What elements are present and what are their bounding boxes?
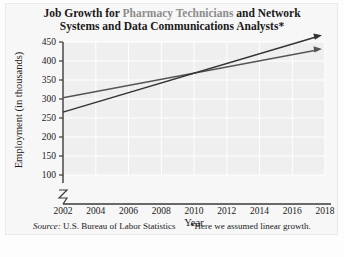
source-text: U.S. Bureau of Labor Statistics — [61, 221, 176, 231]
chart-title-line-2: Systems and Data Communications Analysts… — [60, 20, 285, 33]
x-tick-label: 2010 — [185, 206, 204, 216]
y-tick-label: 300 — [42, 94, 57, 104]
y-tick-label: 200 — [42, 132, 57, 142]
line-chart: 100 150 200 250 300 350 400 450 2002 200… — [0, 0, 344, 257]
x-tick-label: 2016 — [283, 206, 302, 216]
x-axis-tick-labels: 2002 2004 2006 2008 2010 2012 2014 2016 … — [54, 206, 335, 216]
y-tick-label: 250 — [42, 113, 57, 123]
y-axis-break-icon — [59, 190, 67, 204]
y-axis-tick-labels: 100 150 200 250 300 350 400 450 — [42, 37, 57, 180]
y-tick-label: 100 — [42, 170, 57, 180]
y-tick-label: 400 — [42, 56, 57, 66]
title-segment-suffix: and Network — [233, 7, 301, 19]
x-tick-label: 2006 — [119, 206, 138, 216]
x-tick-label: 2002 — [54, 206, 73, 216]
source-note: Source: U.S. Bureau of Labor Statistics — [33, 221, 176, 231]
x-tick-label: 2012 — [217, 206, 236, 216]
y-tick-label: 350 — [42, 75, 57, 85]
title-segment-highlight: Pharmacy Technicians — [123, 7, 234, 20]
y-tick-label: 150 — [42, 151, 57, 161]
title-segment-prefix: Job Growth for — [43, 7, 122, 19]
x-tick-label: 2018 — [316, 206, 335, 216]
x-tick-label: 2008 — [152, 206, 171, 216]
footnote-text: *Here we assumed linear growth. — [190, 221, 311, 231]
figure-container: 100 150 200 250 300 350 400 450 2002 200… — [0, 0, 344, 257]
y-axis-title: Employment (in thousands) — [13, 51, 25, 168]
chart-title-line-1: Job Growth for Pharmacy Technicians and … — [43, 7, 301, 20]
source-label: Source: — [33, 221, 61, 231]
y-tick-label: 450 — [42, 37, 57, 47]
x-tick-label: 2014 — [250, 206, 269, 216]
x-tick-label: 2004 — [86, 206, 105, 216]
